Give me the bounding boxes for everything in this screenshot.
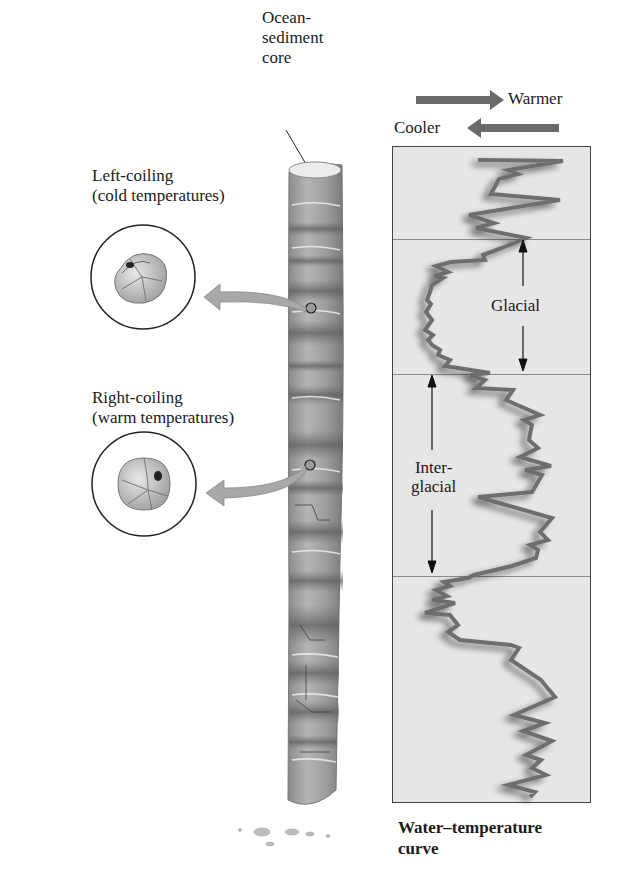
chart-overlay: [0, 0, 624, 890]
glacial-label: Glacial: [491, 296, 540, 316]
interglacial-label: Inter- glacial: [411, 458, 456, 496]
chart-caption: Water–temperature curve: [398, 817, 542, 859]
